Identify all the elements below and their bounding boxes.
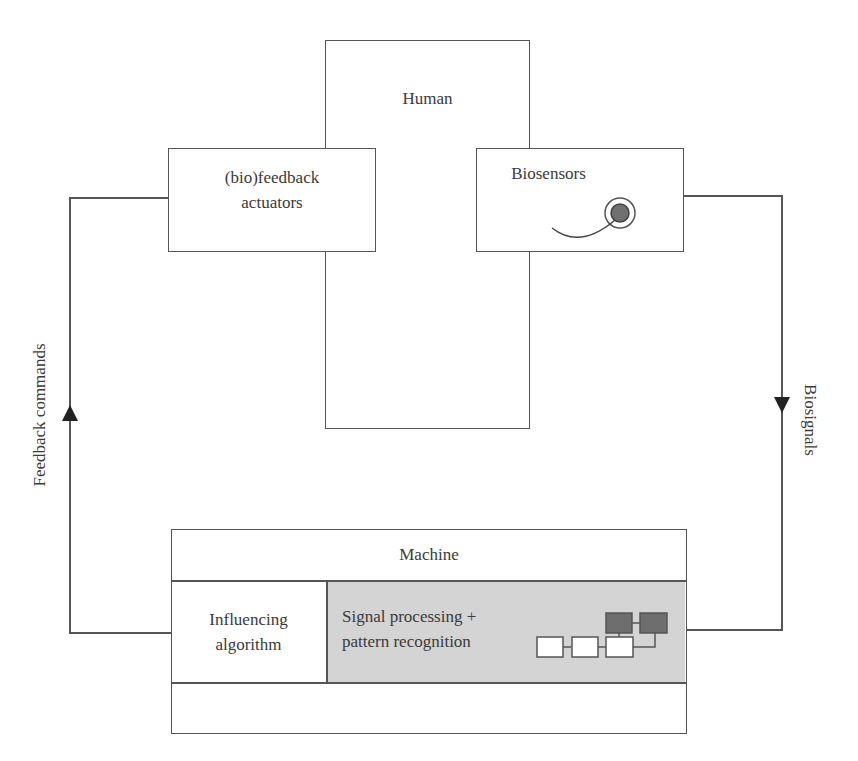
biosensors-label: Biosensors [476,162,621,185]
influencing-label-line2: algorithm [171,633,326,656]
arrow-down-icon [774,397,790,413]
biosignals-line-top [683,195,783,197]
machine-label: Machine [171,543,687,566]
actuators-label-line1: (bio)feedback [168,166,376,189]
actuators-label-line2: actuators [168,191,376,214]
processing-label-line2: pattern recognition [342,630,471,653]
biosignals-line-bottom [686,629,783,631]
sensor-electrode-icon [540,188,640,243]
machine-divider-bottom [171,682,687,684]
arrow-up-icon [62,405,78,421]
machine-divider-vertical [326,581,328,683]
block-network-icon [535,610,675,670]
human-label: Human [325,87,530,110]
feedback-line-top [69,197,169,199]
feedback-line-bottom [69,632,172,634]
influencing-label-line1: Influencing [171,608,326,631]
processing-label-line1: Signal processing + [342,605,476,628]
feedback-commands-label: Feedback commands [30,335,50,495]
biosignals-label: Biosignals [800,370,820,470]
